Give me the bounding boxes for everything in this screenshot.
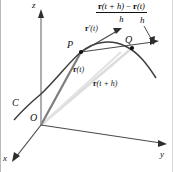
x-axis: [12, 125, 41, 162]
position-vector-helper-line: [41, 52, 121, 125]
vector-label-r-t-arg: (t): [77, 65, 85, 74]
formula-num-arg1: (t + h): [102, 1, 124, 11]
vector-label-r-prime-arg: (t): [90, 24, 98, 33]
point-label-origin: O: [30, 113, 37, 123]
space-curve-c: [14, 42, 156, 120]
y-axis: [41, 125, 167, 147]
vector-label-r-t-plus-h: r(t + h): [93, 80, 118, 88]
point-q-dot: [130, 46, 134, 50]
axis-label-z: z: [32, 1, 36, 10]
formula-numerator: r(t + h) − r(t): [96, 1, 147, 13]
axis-label-y: y: [160, 150, 164, 159]
point-label-p: P: [67, 40, 73, 50]
z-axis: [38, 9, 44, 125]
curve-label-c: C: [12, 98, 19, 108]
axis-label-x: x: [3, 154, 7, 163]
vector-label-r-t: r(t): [73, 66, 84, 74]
formula-num-arg2: (t): [137, 1, 145, 11]
formula-denominator: h: [96, 13, 147, 24]
vector-derivative-figure: z x y P Q O C r(t) r(t + h) r′(t) h r(t …: [0, 0, 173, 172]
vector-label-r-prime-t: r′(t): [85, 25, 98, 33]
point-label-q: Q: [125, 35, 132, 45]
difference-quotient-formula: r(t + h) − r(t) h: [96, 1, 147, 24]
formula-num-minus: −: [124, 1, 133, 11]
vector-label-r-t-plus-h-arg: (t + h): [97, 79, 118, 88]
point-p-dot: [79, 50, 83, 54]
